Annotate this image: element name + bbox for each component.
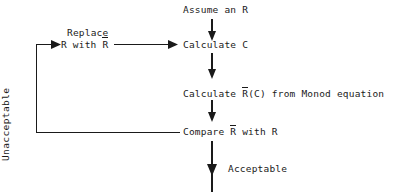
- arrowhead-monod-to-compare: [208, 112, 216, 122]
- edge-label-acceptable: Acceptable: [228, 163, 287, 175]
- node-replace-r-line1: Replace: [61, 27, 108, 39]
- node-assume-an-r: Assume an R: [183, 4, 248, 16]
- node-calculate-r-monod: Calculate R(C) from Monod equation: [183, 88, 384, 100]
- node-replace-r: Replace R with R: [61, 27, 108, 50]
- node-compare-r-suffix: with R: [236, 126, 277, 137]
- arrowhead-feedback-to-replace: [51, 40, 61, 49]
- flowchart-canvas: Assume an R Replace R with R Calculate C…: [0, 0, 396, 192]
- node-assume-an-r-label: Assume an R: [183, 4, 248, 15]
- edge-label-acceptable-text: Acceptable: [228, 163, 287, 174]
- edge-label-unacceptable: Unacceptable: [0, 88, 11, 161]
- node-replace-r-prefix: R with: [61, 39, 102, 50]
- arrowhead-calculate-c-to-monod: [208, 69, 216, 79]
- node-compare-r-prefix: Compare: [183, 126, 230, 137]
- node-calculate-c-label: Calculate C: [183, 39, 248, 50]
- arrowhead-replace-to-calculate-c: [168, 40, 178, 49]
- arrowhead-acceptable: [207, 164, 217, 176]
- node-replace-r-overbar-symbol: R: [102, 39, 108, 51]
- node-calculate-r-suffix: (C) from Monod equation: [248, 88, 384, 99]
- edge-label-unacceptable-text: Unacceptable: [0, 88, 11, 161]
- node-calculate-r-overbar-symbol: R: [242, 88, 248, 100]
- node-compare-r-overbar-symbol: R: [230, 126, 236, 138]
- node-compare-r: Compare R with R: [183, 126, 278, 138]
- node-calculate-c: Calculate C: [183, 39, 248, 51]
- node-replace-r-line2: R with R: [61, 39, 108, 51]
- node-calculate-r-prefix: Calculate: [183, 88, 242, 99]
